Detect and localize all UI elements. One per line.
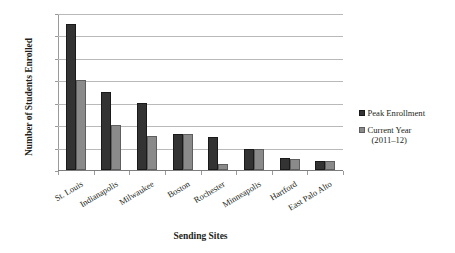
bar: [208, 137, 218, 170]
legend-swatch-icon-current: [359, 127, 365, 133]
bar-group: [100, 92, 122, 171]
y-tick-mark: [55, 104, 58, 105]
bar: [280, 158, 290, 170]
x-tick-mark: [165, 171, 166, 175]
bar-group: [243, 149, 265, 170]
bar: [183, 134, 193, 170]
bar: [137, 103, 147, 170]
legend-item-current-year: Current Year (2011–12): [359, 125, 425, 145]
bar-group: [314, 161, 336, 170]
gridline: [58, 81, 343, 82]
bar: [218, 164, 228, 170]
y-tick-mark: [55, 149, 58, 150]
bar: [147, 136, 157, 170]
plot-area: [58, 14, 343, 171]
bar: [325, 161, 335, 170]
legend-label-current: Current Year (2011–12): [368, 125, 412, 145]
y-tick-mark: [55, 81, 58, 82]
legend-label-current-sub: (2011–12): [368, 135, 412, 145]
legend-label-peak: Peak Enrollment: [368, 108, 426, 118]
y-tick-mark: [55, 59, 58, 60]
gridline: [58, 36, 343, 37]
x-tick-mark: [272, 171, 273, 175]
legend-swatch-icon-peak: [359, 110, 365, 116]
x-tick-mark: [129, 171, 130, 175]
bar-group: [207, 137, 229, 170]
y-tick-mark: [55, 36, 58, 37]
x-tick-mark: [236, 171, 237, 175]
bar: [76, 80, 86, 170]
gridline: [58, 59, 343, 60]
bar: [290, 159, 300, 170]
x-axis-title: Sending Sites: [58, 231, 343, 241]
x-tick-mark: [201, 171, 202, 175]
y-axis-title: Number of Students Enrolled: [24, 12, 34, 182]
bar: [244, 149, 254, 170]
legend-label-current-main: Current Year: [368, 125, 412, 135]
bar-chart: Number of Students Enrolled 02,0004,0006…: [0, 0, 455, 253]
x-tick-mark: [343, 171, 344, 175]
y-axis-line: [58, 14, 59, 171]
legend: Peak Enrollment Current Year (2011–12): [359, 108, 425, 152]
bar: [315, 161, 325, 170]
x-tick-mark: [307, 171, 308, 175]
gridline: [58, 14, 343, 15]
bar-group: [279, 158, 301, 170]
bar-group: [136, 103, 158, 170]
bar: [111, 125, 121, 170]
bar-group: [65, 24, 87, 170]
bar: [101, 92, 111, 171]
legend-item-peak-enrollment: Peak Enrollment: [359, 108, 425, 118]
bar: [66, 24, 76, 170]
y-tick-mark: [55, 14, 58, 15]
x-tick-mark: [58, 171, 59, 175]
y-tick-mark: [55, 126, 58, 127]
x-tick-mark: [94, 171, 95, 175]
bar-group: [172, 134, 194, 170]
bar: [173, 134, 183, 170]
bar: [254, 149, 264, 170]
